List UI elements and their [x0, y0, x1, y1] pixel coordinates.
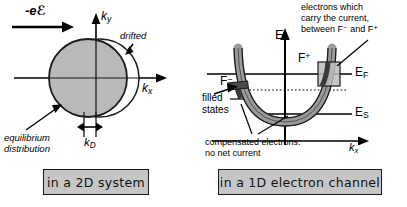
ES-level-label: ES	[355, 106, 369, 120]
top-annotation-leader	[337, 40, 368, 66]
kx-axis-label: kx	[142, 82, 152, 96]
top-annotation-line2: carry the current,	[301, 14, 369, 24]
equilibrium-leader-arrow	[26, 105, 62, 131]
kd-label: kD	[84, 136, 96, 151]
bottom-annotation-line1: compensated electrons:	[205, 138, 301, 148]
EF-level-label: EF	[355, 66, 368, 80]
Fminus-label: F−	[220, 75, 232, 88]
panel-1d-channel: electrons which carry the current, betwe…	[200, 0, 407, 207]
Fplus-label: F+	[298, 52, 310, 65]
caption-2d-system: in a 2D system	[43, 169, 149, 195]
caption-1d-channel-label: in a 1D electron channel	[220, 175, 380, 190]
filled-states-line1: filled	[202, 93, 223, 104]
E-axis	[280, 28, 290, 145]
kx-axis-label-1d: kx	[349, 142, 358, 155]
equilibrium-label-line2: distribution	[4, 144, 50, 154]
ky-axis-label: ky	[101, 10, 111, 24]
physics-figure: -eℰ ky kx drifted equilibrium distributi…	[0, 0, 407, 207]
drifted-label: drifted	[120, 31, 146, 41]
caption-1d-channel: in a 1D electron channel	[218, 169, 382, 195]
field-arrow	[12, 22, 74, 33]
top-annotation-line3: between F⁻ and F⁺	[301, 25, 378, 35]
equilibrium-label-line1: equilibrium	[4, 133, 50, 143]
caption-2d-system-label: in a 2D system	[47, 175, 145, 190]
panel-2d-system: -eℰ ky kx drifted equilibrium distributi…	[0, 0, 204, 207]
filled-states-line2: states	[202, 105, 229, 116]
bottom-annotation-line2: no net current	[205, 149, 261, 159]
top-annotation-line1: electrons which	[301, 3, 363, 13]
E-axis-label: E	[275, 28, 284, 42]
electric-force-label: -eℰ	[25, 4, 46, 18]
